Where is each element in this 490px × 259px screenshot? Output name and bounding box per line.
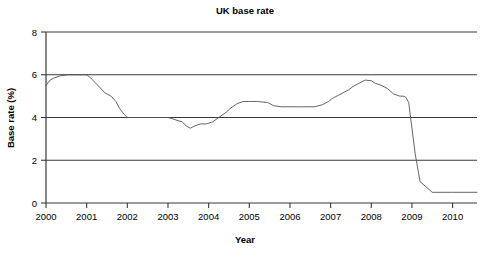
x-axis-title: Year [235, 234, 255, 245]
x-tick-label: 2007 [320, 211, 341, 222]
x-tick-label: 2001 [76, 211, 97, 222]
y-tick-label: 0 [32, 198, 37, 209]
x-tick-label: 2009 [401, 211, 422, 222]
x-tick-label: 2010 [442, 211, 463, 222]
uk-base-rate-chart: UK base rate 02468 200020012002200320042… [0, 0, 490, 259]
y-tick-label: 8 [32, 27, 37, 38]
y-tick-label: 2 [32, 155, 37, 166]
y-tick-label: 6 [32, 69, 37, 80]
x-tick-label: 2008 [361, 211, 382, 222]
x-tick-label: 2003 [157, 211, 178, 222]
x-tick-label: 2002 [117, 211, 138, 222]
chart-title: UK base rate [216, 5, 274, 16]
y-tick-label: 4 [32, 112, 37, 123]
x-tick-label: 2004 [198, 211, 219, 222]
chart-container: UK base rate 02468 200020012002200320042… [0, 0, 490, 259]
x-tick-label: 2005 [239, 211, 260, 222]
y-axis-title: Base rate (%) [5, 88, 16, 148]
x-tick-label: 2006 [279, 211, 300, 222]
x-tick-label: 2000 [35, 211, 56, 222]
